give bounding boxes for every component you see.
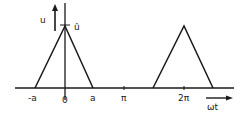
tick-label-neg-a: -a (28, 93, 37, 103)
x-axis-label: ωt (207, 102, 219, 112)
tick-label-zero: 0 (62, 95, 68, 105)
tick-label-pi: π (121, 93, 127, 103)
tick-label-two-pi: 2π (178, 93, 190, 103)
omega-t-arrow-icon (206, 96, 233, 101)
peak-label: û (74, 22, 80, 32)
tick-label-a: a (90, 93, 96, 103)
y-axis-label: u (40, 15, 46, 25)
pulse-2 (153, 26, 213, 88)
pulse-1 (35, 26, 93, 88)
waveform-diagram: u û -a 0 a π 2π ωt (0, 0, 247, 117)
u-arrow-icon (52, 4, 58, 31)
